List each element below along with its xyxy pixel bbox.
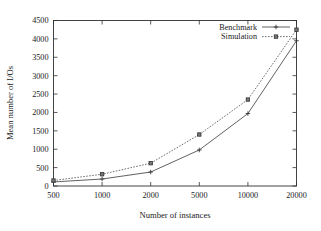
- y-tick-label: 2500: [32, 90, 48, 99]
- data-point-benchmark: [100, 177, 105, 182]
- y-tick-label: 3000: [32, 72, 48, 81]
- x-axis-title: Number of instances: [139, 210, 211, 220]
- y-tick-label: 2000: [32, 108, 48, 117]
- chart-legend: BenchmarkSimulation: [219, 23, 290, 42]
- legend-marker-benchmark: [274, 25, 279, 30]
- y-tick-label: 1500: [32, 127, 48, 136]
- series-line-benchmark: [54, 41, 297, 182]
- data-point-benchmark: [148, 170, 153, 175]
- series-line-simulation: [54, 30, 297, 181]
- legend-marker-simulation: [274, 35, 277, 38]
- y-tick-label: 4500: [32, 16, 48, 25]
- x-tick-label: 20000: [286, 191, 306, 200]
- y-tick-label: 3500: [32, 53, 48, 62]
- legend-label-simulation: Simulation: [221, 32, 257, 41]
- data-point-simulation: [149, 161, 152, 164]
- x-axis-tick-labels: 5001000200050001000020000: [47, 191, 306, 200]
- y-axis-title: Mean number of I/Os: [5, 65, 15, 140]
- legend-label-benchmark: Benchmark: [219, 23, 258, 32]
- y-tick-label: 1000: [32, 145, 48, 154]
- data-point-simulation: [100, 173, 103, 176]
- data-series-layer: [51, 28, 299, 184]
- x-tick-label: 1000: [94, 191, 110, 200]
- data-point-simulation: [246, 98, 249, 101]
- x-tick-label: 500: [47, 191, 59, 200]
- chart-figure: 050010001500200025003000350040004500 500…: [0, 0, 321, 231]
- data-point-simulation: [198, 133, 201, 136]
- line-chart-canvas: 050010001500200025003000350040004500 500…: [0, 0, 321, 231]
- data-point-simulation: [295, 28, 298, 31]
- x-tick-label: 5000: [191, 191, 207, 200]
- x-tick-label: 2000: [143, 191, 159, 200]
- y-tick-label: 4000: [32, 35, 48, 44]
- y-tick-label: 500: [36, 164, 48, 173]
- x-tick-label: 10000: [238, 191, 258, 200]
- data-point-simulation: [52, 179, 55, 182]
- y-axis-tick-labels: 050010001500200025003000350040004500: [32, 16, 48, 191]
